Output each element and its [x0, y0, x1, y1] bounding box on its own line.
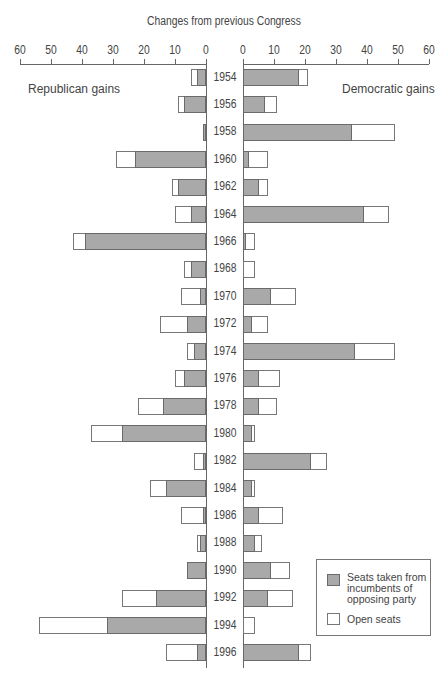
republican-incumbent-bar	[166, 480, 206, 497]
democratic-incumbent-bar	[243, 398, 259, 415]
democratic-incumbent-bar	[243, 69, 299, 86]
right-axis-tick	[274, 59, 275, 64]
right-tick-label: 10	[268, 43, 279, 57]
republican-incumbent-bar	[191, 206, 207, 223]
left-axis-tick	[175, 59, 176, 64]
year-label: 1958	[210, 124, 241, 138]
democratic-incumbent-bar	[243, 206, 364, 223]
left-tick-label: 20	[138, 43, 149, 57]
year-label: 1964	[210, 207, 241, 221]
republican-incumbent-bar	[156, 590, 206, 607]
democratic-incumbent-bar	[243, 233, 246, 250]
republican-incumbent-bar	[107, 617, 206, 634]
republican-incumbent-bar	[203, 453, 206, 470]
year-label: 1954	[210, 70, 241, 84]
right-axis-tick	[336, 59, 337, 64]
chart-title: Changes from previous Congress	[31, 14, 416, 28]
democratic-incumbent-bar	[243, 562, 271, 579]
left-tick-label: 0	[203, 43, 209, 57]
democratic-incumbent-bar	[243, 370, 259, 387]
left-tick-label: 10	[169, 43, 180, 57]
democratic-incumbent-bar	[243, 535, 255, 552]
year-label: 1962	[210, 179, 241, 193]
left-tick-label: 40	[76, 43, 87, 57]
republican-incumbent-bar	[197, 69, 206, 86]
republican-incumbent-bar	[122, 425, 206, 442]
democratic-incumbent-bar	[243, 480, 252, 497]
democratic-incumbent-bar	[243, 507, 259, 524]
diverging-bar-chart: Changes from previous Congress 606050504…	[0, 0, 448, 684]
year-label: 1992	[210, 590, 241, 604]
democratic-incumbent-bar	[243, 151, 249, 168]
left-tick-label: 50	[45, 43, 56, 57]
republican-incumbent-bar	[194, 343, 206, 360]
democratic-incumbent-bar	[243, 453, 311, 470]
republican-incumbent-bar	[197, 644, 206, 661]
year-label: 1980	[210, 426, 241, 440]
republican-incumbent-bar	[203, 124, 206, 141]
right-tick-label: 20	[299, 43, 310, 57]
democratic-incumbent-bar	[243, 96, 265, 113]
right-axis-tick	[398, 59, 399, 64]
year-label: 1968	[210, 261, 241, 275]
republican-incumbent-bar	[191, 261, 207, 278]
year-label: 1994	[210, 618, 241, 632]
right-tick-label: 60	[423, 43, 434, 57]
right-tick-label: 0	[240, 43, 246, 57]
left-zero-line	[206, 59, 207, 668]
year-label: 1990	[210, 563, 241, 577]
right-tick-label: 40	[361, 43, 372, 57]
year-label: 1972	[210, 316, 241, 330]
republican-incumbent-bar	[187, 316, 206, 333]
republican-incumbent-bar	[200, 288, 206, 305]
democratic-incumbent-bar	[243, 644, 299, 661]
year-label: 1970	[210, 289, 241, 303]
democratic-incumbent-bar	[243, 343, 355, 360]
democratic-incumbent-bar	[243, 590, 268, 607]
republican-incumbent-bar	[187, 562, 206, 579]
democratic-incumbent-bar	[243, 288, 271, 305]
year-label: 1984	[210, 481, 241, 495]
left-tick-label: 60	[14, 43, 25, 57]
year-label: 1966	[210, 234, 241, 248]
right-tick-label: 50	[392, 43, 403, 57]
republican-incumbent-bar	[85, 233, 206, 250]
legend: Seats taken from incumbents of opposing …	[316, 559, 431, 636]
democratic-open-bar	[243, 617, 255, 634]
democratic-open-bar	[243, 261, 255, 278]
democratic-incumbent-bar	[243, 316, 252, 333]
republican-gains-label: Republican gains	[28, 82, 120, 96]
year-label: 1960	[210, 152, 241, 166]
democratic-incumbent-bar	[243, 425, 252, 442]
democratic-gains-label: Democratic gains	[342, 82, 435, 96]
democratic-incumbent-bar	[243, 124, 352, 141]
republican-incumbent-bar	[200, 535, 206, 552]
legend-open-seats-label: Open seats	[347, 614, 431, 625]
left-axis-tick	[206, 59, 207, 64]
left-axis-line	[20, 64, 206, 65]
right-axis-line	[243, 64, 429, 65]
republican-incumbent-bar	[184, 96, 206, 113]
year-label: 1996	[210, 645, 241, 659]
democratic-incumbent-bar	[243, 179, 259, 196]
right-axis-tick	[305, 59, 306, 64]
year-label: 1956	[210, 97, 241, 111]
right-axis-tick	[243, 59, 244, 64]
republican-incumbent-bar	[178, 179, 206, 196]
year-label: 1978	[210, 398, 241, 412]
year-label: 1976	[210, 371, 241, 385]
republican-incumbent-bar	[203, 507, 206, 524]
incumbent-swatch-icon	[327, 574, 340, 586]
left-axis-tick	[20, 59, 21, 64]
right-axis-tick	[367, 59, 368, 64]
left-axis-tick	[51, 59, 52, 64]
left-axis-tick	[113, 59, 114, 64]
republican-incumbent-bar	[184, 370, 206, 387]
right-tick-label: 30	[330, 43, 341, 57]
republican-incumbent-bar	[135, 151, 206, 168]
right-axis-tick	[429, 59, 430, 64]
year-label: 1986	[210, 508, 241, 522]
year-label: 1982	[210, 453, 241, 467]
legend-incumbent-label: Seats taken from incumbents of opposing …	[347, 572, 431, 605]
open-seats-swatch-icon	[327, 613, 340, 625]
